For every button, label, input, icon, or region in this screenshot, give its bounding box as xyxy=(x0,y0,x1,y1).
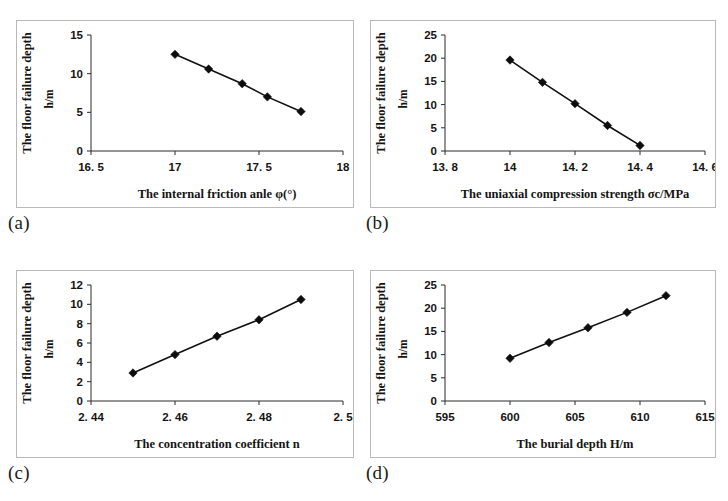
data-point-marker xyxy=(263,93,271,101)
x-tick-label: 13. 8 xyxy=(432,161,458,173)
y-tick-label: 0 xyxy=(431,395,437,407)
y-tick-label: 15 xyxy=(424,75,437,87)
x-tick-label: 2. 46 xyxy=(162,411,188,423)
data-point-marker xyxy=(297,295,305,303)
y-axis-unit-label: h/m xyxy=(43,339,55,359)
data-point-marker xyxy=(255,316,263,324)
y-tick-label: 2 xyxy=(77,376,83,388)
y-axis-unit-label: h/m xyxy=(43,89,55,109)
data-point-marker xyxy=(213,332,221,340)
y-tick-label: 15 xyxy=(424,325,437,337)
y-tick-label: 15 xyxy=(70,29,83,41)
panel-b: 051015202513. 81414. 214. 414. 6The unia… xyxy=(364,0,728,250)
x-tick-label: 600 xyxy=(500,411,519,423)
x-axis-title: The internal friction anle φ(°) xyxy=(138,187,297,201)
x-tick-label: 17 xyxy=(169,161,182,173)
x-axis-title: The concentration coefficient n xyxy=(134,437,300,451)
panel-d: 0510152025595600605610615The burial dept… xyxy=(364,250,728,500)
x-tick-label: 17. 5 xyxy=(246,161,272,173)
x-tick-label: 2. 48 xyxy=(246,411,272,423)
data-point-marker xyxy=(297,107,305,115)
panel-a-box: 05101516. 51717. 518The internal frictio… xyxy=(16,20,354,208)
x-tick-label: 615 xyxy=(695,411,715,423)
data-point-marker xyxy=(171,50,179,58)
data-point-marker xyxy=(603,121,611,129)
panel-c: 0246810122. 442. 462. 482. 5The concentr… xyxy=(0,250,364,500)
y-tick-label: 5 xyxy=(77,106,84,118)
y-tick-label: 4 xyxy=(77,356,84,368)
x-tick-label: 16. 5 xyxy=(78,161,104,173)
figure-grid: 05101516. 51717. 518The internal frictio… xyxy=(0,0,728,501)
data-point-marker xyxy=(506,354,514,362)
y-tick-label: 10 xyxy=(424,349,437,361)
panel-b-caption: (b) xyxy=(366,212,389,234)
panel-c-caption: (c) xyxy=(8,462,30,484)
y-tick-label: 25 xyxy=(424,279,437,291)
data-point-marker xyxy=(662,291,670,299)
y-axis-title: The floor failure depth xyxy=(20,32,34,153)
y-tick-label: 10 xyxy=(424,99,437,111)
y-tick-label: 0 xyxy=(431,145,437,157)
x-tick-label: 2. 44 xyxy=(78,411,104,423)
data-point-marker xyxy=(171,350,179,358)
y-tick-label: 25 xyxy=(424,29,437,41)
y-tick-label: 8 xyxy=(77,318,84,330)
chart-a: 05101516. 51717. 518The internal frictio… xyxy=(17,21,353,207)
y-axis-title: The floor failure depth xyxy=(20,282,34,403)
data-point-marker xyxy=(636,141,644,149)
x-tick-label: 14. 4 xyxy=(627,161,653,173)
x-axis-title: The burial depth H/m xyxy=(516,437,634,451)
y-tick-label: 6 xyxy=(77,337,83,349)
data-point-marker xyxy=(584,323,592,331)
chart-c: 0246810122. 442. 462. 482. 5The concentr… xyxy=(17,271,353,457)
y-tick-label: 20 xyxy=(424,302,437,314)
x-tick-label: 14 xyxy=(504,161,517,173)
y-axis-unit-label: h/m xyxy=(397,339,409,359)
y-tick-label: 20 xyxy=(424,52,437,64)
y-tick-label: 0 xyxy=(77,145,83,157)
chart-b: 051015202513. 81414. 214. 414. 6The unia… xyxy=(371,21,715,207)
y-tick-label: 10 xyxy=(70,68,83,80)
x-tick-label: 14. 6 xyxy=(692,161,715,173)
panel-d-box: 0510152025595600605610615The burial dept… xyxy=(370,270,716,458)
data-point-marker xyxy=(204,65,212,73)
data-point-marker xyxy=(238,80,246,88)
y-tick-label: 5 xyxy=(431,372,438,384)
data-point-marker xyxy=(571,99,579,107)
x-tick-label: 610 xyxy=(630,411,649,423)
y-tick-label: 10 xyxy=(70,298,83,310)
y-tick-label: 5 xyxy=(431,122,438,134)
x-tick-label: 14. 2 xyxy=(562,161,588,173)
y-axis-title: The floor failure depth xyxy=(374,32,388,153)
y-tick-label: 12 xyxy=(70,279,83,291)
data-point-marker xyxy=(129,369,137,377)
x-tick-label: 18 xyxy=(337,161,350,173)
x-tick-label: 2. 5 xyxy=(333,411,353,423)
series-line xyxy=(175,54,301,111)
panel-d-caption: (d) xyxy=(366,462,389,484)
panel-b-box: 051015202513. 81414. 214. 414. 6The unia… xyxy=(370,20,716,208)
chart-d: 0510152025595600605610615The burial dept… xyxy=(371,271,715,457)
x-tick-label: 605 xyxy=(565,411,585,423)
panel-a: 05101516. 51717. 518The internal frictio… xyxy=(0,0,364,250)
data-point-marker xyxy=(623,308,631,316)
data-point-marker xyxy=(545,338,553,346)
x-tick-label: 595 xyxy=(435,411,455,423)
y-tick-label: 0 xyxy=(77,395,83,407)
x-axis-title: The uniaxial compression strength σc/MPa xyxy=(461,187,690,201)
panel-c-box: 0246810122. 442. 462. 482. 5The concentr… xyxy=(16,270,354,458)
y-axis-unit-label: h/m xyxy=(397,89,409,109)
panel-a-caption: (a) xyxy=(8,212,30,234)
y-axis-title: The floor failure depth xyxy=(374,282,388,403)
